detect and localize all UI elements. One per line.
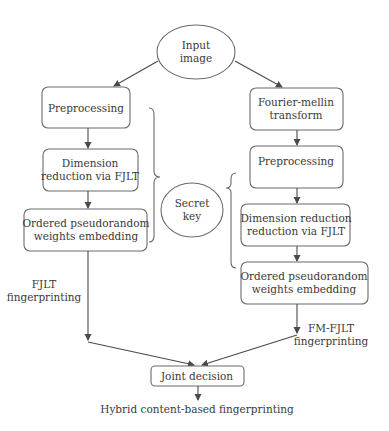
left-preprocessing-label: Preprocessing <box>48 102 124 114</box>
left-preprocessing-box: Preprocessing <box>42 87 130 128</box>
secret-key-label-line1: Secret <box>175 197 211 209</box>
input-image-node: Input image <box>157 25 235 79</box>
right-preprocessing-label: Preprocessing <box>258 155 334 167</box>
fjlt-fingerprinting-label-line1: FJLT <box>32 278 57 290</box>
arrow-input-to-left-preprocessing <box>114 61 158 86</box>
left-brace-icon <box>149 108 160 242</box>
joint-decision-label: Joint decision <box>160 370 233 382</box>
arrow-left-to-joint <box>88 342 194 365</box>
hybrid-fingerprinting-output-label: Hybrid content-based fingerprinting <box>100 403 294 415</box>
fourier-label-line2: transform <box>270 109 323 121</box>
input-image-label-line2: image <box>180 52 213 64</box>
right-ordered-label-line2: weights embedding <box>252 283 357 295</box>
arrow-input-to-fourier <box>235 61 282 87</box>
left-dimension-label-line1: Dimension <box>62 157 119 169</box>
left-ordered-label-line1: Ordered pseudorandom <box>22 217 149 229</box>
input-image-label-line1: Input <box>182 39 211 51</box>
right-ordered-label-line1: Ordered pseudorandom <box>240 270 367 282</box>
left-dimension-reduction-box: Dimension reduction via FJLT <box>41 149 139 191</box>
right-dimension-label-line2: reduction via FJLT <box>247 225 345 237</box>
right-dimension-reduction-box: Dimension reduction reduction via FJLT <box>240 204 351 246</box>
joint-decision-box: Joint decision <box>151 366 244 386</box>
left-ordered-embedding-box: Ordered pseudorandom weights embedding <box>22 209 149 251</box>
fm-fjlt-fingerprinting-label-line2: fingerprinting <box>294 335 369 347</box>
fjlt-fingerprinting-label-line2: fingerprinting <box>7 291 82 303</box>
flowchart-diagram: Input image Preprocessing Dimension redu… <box>0 0 389 431</box>
fourier-mellin-transform-box: Fourier-mellin transform <box>250 88 343 130</box>
arrow-right-to-joint <box>202 335 297 365</box>
right-brace-icon <box>226 173 236 268</box>
left-dimension-label-line2: reduction via FJLT <box>41 170 139 182</box>
right-preprocessing-box: Preprocessing <box>250 146 343 188</box>
fourier-label-line1: Fourier-mellin <box>258 96 334 108</box>
secret-key-label-line2: key <box>183 210 202 222</box>
right-dimension-label-line1: Dimension reduction <box>240 212 351 224</box>
fm-fjlt-fingerprinting-label-line1: FM-FJLT <box>308 322 354 334</box>
secret-key-node: Secret key <box>161 183 223 237</box>
left-ordered-label-line2: weights embedding <box>34 230 139 242</box>
right-ordered-embedding-box: Ordered pseudorandom weights embedding <box>240 262 368 304</box>
